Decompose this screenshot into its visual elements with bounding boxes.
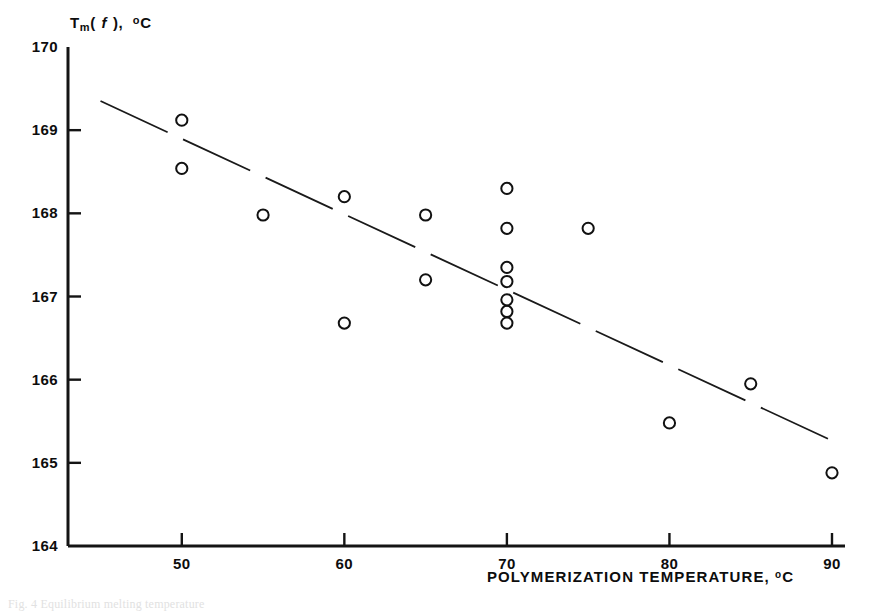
axis-lines	[68, 47, 845, 546]
x-tick-label-60: 60	[314, 555, 374, 572]
trend-line	[101, 101, 837, 443]
data-point-marker	[745, 378, 756, 389]
data-point-marker	[501, 262, 512, 273]
y-tick-label-166: 166	[0, 371, 58, 388]
y-axis-title-symbol: T	[70, 14, 80, 31]
data-point-marker	[501, 306, 512, 317]
figure-caption-partial: Fig. 4 Equilibrium melting temperature	[8, 597, 205, 611]
x-tick-label-80: 80	[639, 555, 699, 572]
data-point-marker	[420, 274, 431, 285]
data-point-marker	[501, 183, 512, 194]
y-tick-label-165: 165	[0, 454, 58, 471]
x-tick-label-50: 50	[152, 555, 212, 572]
data-point-marker	[339, 318, 350, 329]
data-point-markers	[176, 115, 837, 479]
figure-container: Tm( f ), oC POLYMERIZATION TEMPERATURE, …	[0, 0, 873, 611]
data-point-marker	[664, 417, 675, 428]
x-tick-label-90: 90	[802, 555, 862, 572]
data-point-marker	[501, 318, 512, 329]
y-tick-label-167: 167	[0, 288, 58, 305]
y-tick-label-170: 170	[0, 38, 58, 55]
data-point-marker	[339, 191, 350, 202]
data-point-marker	[420, 209, 431, 220]
data-point-marker	[176, 163, 187, 174]
data-point-marker	[501, 294, 512, 305]
y-axis-ticks	[68, 130, 81, 463]
data-point-marker	[583, 223, 594, 234]
scatter-plot	[0, 0, 873, 611]
y-tick-label-169: 169	[0, 121, 58, 138]
data-point-marker	[826, 467, 837, 478]
y-tick-label-168: 168	[0, 204, 58, 221]
data-point-marker	[257, 209, 268, 220]
data-point-marker	[501, 276, 512, 287]
y-axis-title-subscript: m	[80, 21, 90, 33]
data-point-marker	[501, 223, 512, 234]
y-axis-title-paren-open: (	[90, 14, 100, 31]
trend-line-segment	[101, 101, 837, 443]
x-tick-label-70: 70	[477, 555, 537, 572]
x-axis-unit: C	[782, 568, 794, 585]
x-axis-ticks	[182, 533, 832, 546]
data-point-marker	[176, 115, 187, 126]
y-axis-unit: C	[140, 14, 151, 31]
y-axis-title-variable: f	[101, 14, 109, 31]
y-axis-title: Tm( f ), oC	[70, 14, 152, 33]
y-tick-label-164: 164	[0, 537, 58, 554]
y-axis-title-paren-close: ),	[108, 14, 123, 31]
